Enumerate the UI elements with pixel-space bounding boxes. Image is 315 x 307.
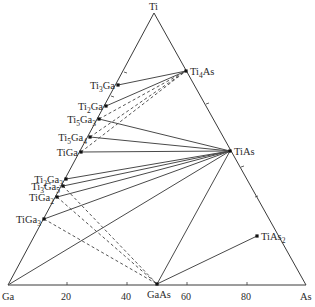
tie-line xyxy=(81,151,230,152)
axis-tick-label: 80 xyxy=(241,291,251,302)
tick-mark xyxy=(206,103,209,104)
ternary-phase-diagram: Ti3GaTi2GaTi5Ga3Ti5Ga4TiGaTi2Ga3Ti3Ga5Ti… xyxy=(0,0,315,307)
vertex-label-ga: Ga xyxy=(2,291,15,302)
phase-point xyxy=(64,177,67,180)
phase-label-tiga2: TiGa2 xyxy=(29,192,54,206)
tie-line xyxy=(66,151,230,179)
dashed-tie-line xyxy=(99,71,186,119)
vertex-label-ti: Ti xyxy=(149,1,158,12)
tie-line xyxy=(118,71,186,85)
dashed-tie-line xyxy=(63,186,157,284)
tick-mark xyxy=(241,166,244,167)
phase-point xyxy=(97,117,100,120)
tie-line xyxy=(157,236,257,284)
phase-point xyxy=(55,195,58,198)
phase-point xyxy=(228,149,231,152)
dashed-tie-line xyxy=(57,197,157,284)
phase-label-ti4as: Ti4As xyxy=(190,66,214,80)
tie-line xyxy=(157,151,230,284)
tie-line xyxy=(57,151,230,197)
axis-tick-label: 40 xyxy=(121,291,131,302)
phase-label-tiga: TiGa xyxy=(57,147,79,158)
phase-labels: Ti3GaTi2GaTi5Ga3Ti5Ga4TiGaTi2Ga3Ti3Ga5Ti… xyxy=(16,66,286,300)
phase-point xyxy=(42,217,45,220)
tie-line xyxy=(106,71,186,106)
phase-point xyxy=(116,83,119,86)
triangle-edges xyxy=(8,13,306,285)
tie-line xyxy=(99,119,230,151)
axis-tick-label: 20 xyxy=(61,291,71,302)
phase-label-ti2ga: Ti2Ga xyxy=(78,101,103,115)
axis-tick-label: 60 xyxy=(181,291,191,302)
phase-label-gaas: GaAs xyxy=(147,289,171,300)
phase-point xyxy=(255,234,258,237)
phase-label-ti5ga3: Ti5Ga3 xyxy=(67,114,96,128)
phase-point xyxy=(155,282,158,285)
tie-line xyxy=(44,151,230,219)
vertex-label-as: As xyxy=(300,291,312,302)
phase-label-tias2: TiAs2 xyxy=(261,231,286,245)
tick-mark xyxy=(124,72,127,73)
phase-point xyxy=(184,69,187,72)
phase-point xyxy=(104,104,107,107)
tie-line xyxy=(90,137,230,151)
phase-label-ti5ga4: Ti5Ga4 xyxy=(58,132,87,146)
phase-point xyxy=(79,150,82,153)
phase-label-tiga3: TiGa3 xyxy=(16,214,41,228)
tick-mark xyxy=(255,196,258,197)
triangle-outline xyxy=(8,13,306,285)
tick-mark xyxy=(111,96,114,97)
tie-line xyxy=(63,151,230,186)
phase-label-tias: TiAs xyxy=(234,146,255,157)
phase-point xyxy=(88,135,91,138)
